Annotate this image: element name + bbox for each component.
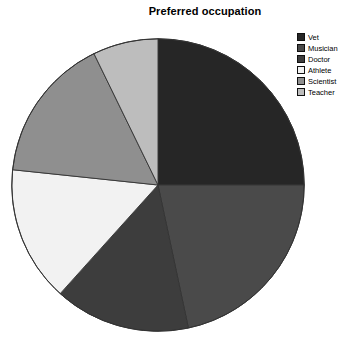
legend-label: Scientist bbox=[308, 77, 336, 86]
legend-swatch-icon bbox=[297, 55, 305, 63]
legend-label: Doctor bbox=[308, 55, 330, 64]
legend-item-doctor[interactable]: Doctor bbox=[297, 54, 354, 64]
pie-slice-group bbox=[12, 39, 304, 331]
legend-item-vet[interactable]: Vet bbox=[297, 32, 354, 42]
legend-swatch-icon bbox=[297, 77, 305, 85]
legend-swatch-icon bbox=[297, 44, 305, 52]
pie-chart-svg bbox=[11, 38, 305, 332]
legend-item-teacher[interactable]: Teacher bbox=[297, 87, 354, 97]
chart-title: Preferred occupation bbox=[0, 5, 354, 17]
pie-slice-vet[interactable] bbox=[158, 39, 304, 185]
legend-item-musician[interactable]: Musician bbox=[297, 43, 354, 53]
pie-chart bbox=[11, 38, 305, 332]
chart-page: Preferred occupation VetMusicianDoctorAt… bbox=[0, 0, 354, 340]
legend-label: Musician bbox=[308, 44, 338, 53]
legend-item-scientist[interactable]: Scientist bbox=[297, 76, 354, 86]
legend-item-athlete[interactable]: Athlete bbox=[297, 65, 354, 75]
chart-legend: VetMusicianDoctorAthleteScientistTeacher bbox=[297, 32, 354, 98]
legend-swatch-icon bbox=[297, 88, 305, 96]
legend-label: Athlete bbox=[308, 66, 331, 75]
legend-swatch-icon bbox=[297, 33, 305, 41]
legend-swatch-icon bbox=[297, 66, 305, 74]
legend-label: Teacher bbox=[308, 88, 335, 97]
legend-label: Vet bbox=[308, 33, 319, 42]
